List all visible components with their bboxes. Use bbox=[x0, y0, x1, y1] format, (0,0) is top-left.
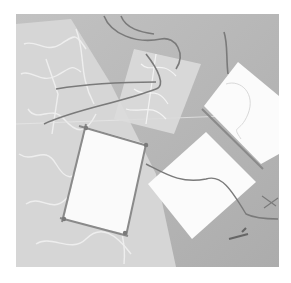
photograph bbox=[16, 14, 279, 267]
